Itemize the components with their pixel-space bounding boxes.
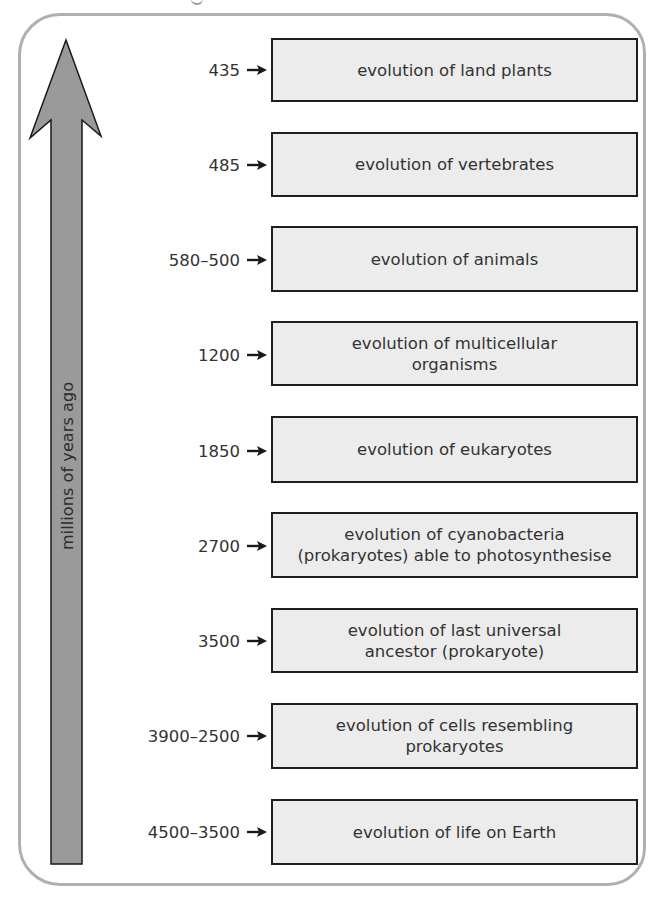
date-label: 3500: [198, 632, 240, 651]
date-label: 1850: [198, 442, 240, 461]
pointer-arrow-icon: [246, 445, 268, 457]
pointer-arrow-icon: [246, 730, 268, 742]
pointer-arrow-icon: [246, 826, 268, 838]
axis-label: millions of years ago: [58, 382, 77, 550]
date-label: 485: [209, 156, 241, 175]
date-label: 2700: [198, 537, 240, 556]
event-label: evolution of vertebrates: [355, 154, 554, 175]
date-label: 580–500: [169, 251, 240, 270]
event-label: evolution of eukaryotes: [357, 439, 552, 460]
event-box: evolution of cells resembling prokaryote…: [271, 703, 638, 769]
event-label: evolution of cells resembling prokaryote…: [336, 715, 573, 757]
event-box: evolution of life on Earth: [271, 799, 638, 865]
event-label: evolution of cyanobacteria (prokaryotes)…: [297, 524, 611, 566]
event-box: evolution of land plants: [271, 38, 638, 102]
event-label: evolution of land plants: [357, 60, 552, 81]
date-label: 1200: [198, 346, 240, 365]
cropped-text-fragment: [191, 0, 203, 5]
event-label: evolution of life on Earth: [353, 822, 556, 843]
event-label: evolution of animals: [371, 249, 539, 270]
event-box: evolution of animals: [271, 226, 638, 292]
pointer-arrow-icon: [246, 540, 268, 552]
event-box: evolution of last universal ancestor (pr…: [271, 608, 638, 673]
event-box: evolution of vertebrates: [271, 132, 638, 197]
pointer-arrow-icon: [246, 635, 268, 647]
event-label: evolution of last universal ancestor (pr…: [348, 620, 562, 662]
event-box: evolution of cyanobacteria (prokaryotes)…: [271, 512, 638, 578]
event-box: evolution of eukaryotes: [271, 416, 638, 483]
date-label: 435: [209, 61, 241, 80]
date-label: 3900–2500: [148, 727, 240, 746]
pointer-arrow-icon: [246, 349, 268, 361]
pointer-arrow-icon: [246, 64, 268, 76]
event-box: evolution of multicellular organisms: [271, 321, 638, 386]
date-label: 4500–3500: [148, 823, 240, 842]
pointer-arrow-icon: [246, 159, 268, 171]
event-label: evolution of multicellular organisms: [352, 333, 558, 375]
pointer-arrow-icon: [246, 254, 268, 266]
